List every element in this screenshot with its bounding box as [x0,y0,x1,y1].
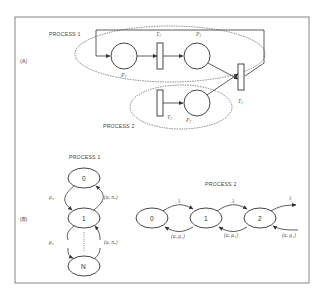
place-p2-label: P2 [185,117,191,124]
transition-t1 [238,64,244,90]
petri-net-figure: (A) PROCESS 1 PROCESS 2 P3 T3 P1 T1 T2 [0,0,322,296]
place-p3 [111,43,137,69]
panel-a-label: (A) [20,58,28,64]
process2-title: PROCESS 2 [205,181,237,187]
arc-p2-1-to-0 [165,227,193,232]
arc-p2-in-to-2 [273,226,298,230]
rate-a-pi-a: (a, πₐ) [104,194,118,201]
lambda-3: λ [288,195,292,201]
panel-a: (A) PROCESS 1 PROCESS 2 P3 T3 P1 T1 T2 [20,26,265,129]
service-rate-2: (a, μ₁) [224,232,238,239]
rate-mu2-a: μ₂ [49,194,54,200]
service-rate-1: (a, μ₁) [171,233,185,240]
arc-1-to-n [67,226,74,258]
panel-b-label: (B) [20,216,28,222]
arc-0-to-1 [65,186,74,210]
arc-p2-2-to-1 [219,227,247,232]
transition-t2 [157,90,163,116]
arc-n-to-1 [95,226,100,258]
process2-boundary [130,85,232,129]
service-rate-3: (a, μ₁) [282,232,296,239]
arc-1-to-0 [94,186,103,210]
process1-chain: PROCESS 1 0 1 N μ₂ (a, πₐ) μ₂ (a, πₐ) [49,154,118,276]
panel-b: (B) PROCESS 1 0 1 N μ₂ (a, πₐ) μ₂ (a, πₐ… [20,154,298,276]
arc-p2-2-out [271,205,296,211]
place-p1-label: P1 [195,31,201,38]
process2-label: PROCESS 2 [103,123,135,129]
rate-a-pi-b: (a, πₐ) [104,239,118,246]
rate-mu2-b: μ₂ [49,239,54,245]
transition-t3-label: T3 [156,31,161,38]
process1-label: PROCESS 1 [49,31,81,37]
lambda-1: λ [177,198,181,204]
transition-t3 [157,43,163,69]
state-n-label: N [81,263,86,270]
arc-p2-0-to-1 [163,205,193,211]
lambda-2: λ [231,198,235,204]
transition-t2-label: T2 [167,114,172,121]
arc-p2-1-to-2 [217,205,247,211]
place-p1 [184,43,210,69]
process1-title: PROCESS 1 [69,154,101,160]
process1-boundary [75,26,265,82]
transition-t1-label: T1 [238,98,243,105]
process2-chain: PROCESS 2 0 1 2 λ λ λ (a, μ₁) (a, μ₁) (a… [136,181,298,240]
state-1-label: 1 [82,215,86,222]
p2-state-1-label: 1 [204,215,208,222]
p2-state-2-label: 2 [258,215,262,222]
state-0-label: 0 [82,175,86,182]
place-p2 [184,90,210,116]
p2-state-0-label: 0 [150,215,154,222]
